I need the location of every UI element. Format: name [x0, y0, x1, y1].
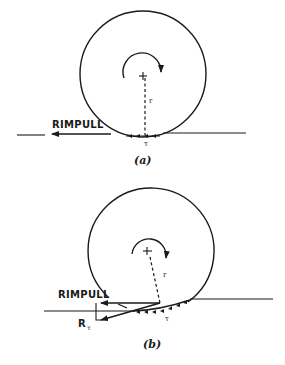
- panel-b: r RIMPULL R τ τ (b): [44, 188, 273, 351]
- rimpull-label-b: RIMPULL: [58, 289, 110, 300]
- caption-a: (a): [134, 154, 152, 167]
- svg-text:τ: τ: [87, 324, 91, 331]
- rimpull-label-a: RIMPULL: [52, 119, 104, 130]
- force-triangle-tick-b: [118, 304, 127, 308]
- radius-label-b: r: [163, 271, 167, 279]
- rotation-arrow-b: [132, 239, 166, 258]
- radius-line-b: [150, 257, 160, 303]
- resultant-label-b: R τ: [78, 318, 91, 331]
- center-mark-b: [143, 247, 152, 255]
- radius-label-a: r: [149, 97, 153, 105]
- center-mark-a: [139, 72, 147, 80]
- wheel-rimpull-diagram: r RIMPULL τ (a) r: [0, 0, 285, 365]
- shear-label-b: τ: [165, 315, 169, 323]
- svg-text:R: R: [78, 318, 86, 329]
- panel-a: r RIMPULL τ (a): [17, 11, 246, 167]
- wheel-b: [88, 188, 214, 302]
- contact-patch-b: [133, 300, 190, 311]
- shear-label-a: τ: [144, 140, 148, 148]
- rotation-arrow-a: [123, 53, 161, 78]
- caption-b: (b): [143, 338, 161, 351]
